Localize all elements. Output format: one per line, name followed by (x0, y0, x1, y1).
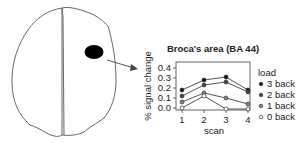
right-hemisphere-outline (62, 7, 116, 135)
data-point (202, 94, 206, 98)
data-point (246, 107, 250, 111)
pointer-arrow (107, 60, 138, 71)
data-point (180, 106, 184, 110)
line-chart: Broca's area (BA 44) 0.00.10.20.30.4 123… (142, 43, 295, 136)
legend-item: 0 back (259, 111, 295, 122)
chart-title: Broca's area (BA 44) (167, 43, 259, 54)
legend-item: 1 back (259, 100, 295, 111)
legend-marker (259, 104, 263, 108)
x-tick-label: 1 (179, 114, 184, 125)
brain-diagram (12, 7, 138, 136)
y-tick-label: 0.0 (158, 102, 171, 113)
x-axis-label: scan (204, 125, 224, 136)
legend-title: load (258, 67, 276, 78)
data-point (246, 102, 250, 106)
data-point (224, 75, 228, 79)
left-hemisphere-outline (12, 8, 62, 136)
legend-marker (259, 93, 263, 97)
activation-blob (85, 45, 104, 59)
x-tick-label: 3 (223, 114, 228, 125)
data-point (224, 107, 228, 111)
legend-item: 3 back (259, 78, 295, 89)
data-point (180, 100, 184, 104)
y-axis-label: % signal change (142, 51, 153, 121)
y-tick-label: 0.3 (158, 72, 171, 83)
legend-label: 1 back (267, 100, 295, 111)
y-tick-label: 0.2 (158, 82, 171, 93)
data-point (224, 96, 228, 100)
brain-activation-figure: Broca's area (BA 44) 0.00.10.20.30.4 123… (0, 0, 304, 143)
legend-label: 3 back (267, 78, 295, 89)
series-0-back (180, 94, 250, 111)
data-point (180, 94, 184, 98)
series-group (180, 75, 250, 111)
legend-item: 2 back (259, 89, 295, 100)
legend-label: 0 back (267, 111, 295, 122)
y-tick-label: 0.1 (158, 92, 171, 103)
legend: load 3 back2 back1 back0 back (258, 67, 295, 122)
y-axis: 0.00.10.20.30.4 (158, 62, 176, 113)
legend-label: 2 back (267, 89, 295, 100)
data-point (202, 78, 206, 82)
legend-marker (259, 82, 263, 86)
x-tick-label: 4 (245, 114, 250, 125)
plot-frame (176, 62, 250, 110)
x-tick-label: 2 (201, 114, 206, 125)
data-point (202, 83, 206, 87)
legend-marker (259, 115, 263, 119)
data-point (180, 88, 184, 92)
y-tick-label: 0.4 (158, 62, 171, 73)
data-point (224, 80, 228, 84)
data-point (246, 90, 250, 94)
x-axis: 1234 (179, 110, 250, 125)
